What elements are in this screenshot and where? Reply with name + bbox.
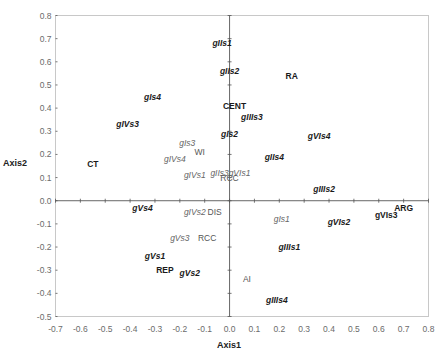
y-tick-label: -0.3 — [37, 265, 52, 275]
point-label: gIIIs1 — [277, 242, 300, 252]
point-label: RA — [286, 71, 298, 81]
x-tick-label: 0.8 — [423, 324, 435, 334]
point-label: gIs3 — [179, 138, 195, 148]
point-label: gVs3 — [170, 233, 190, 243]
y-tick-label: -0.5 — [37, 312, 52, 322]
y-tick-label: 0.4 — [40, 103, 52, 113]
x-tick-label: -0.2 — [173, 324, 188, 334]
point-label: gIVs3 — [115, 119, 139, 129]
data-labels: gIIs1gIIs2RAgIs4CENTgIIIs3gIVs3gIs2gVIs4… — [87, 38, 413, 305]
y-tick-label: 0.1 — [40, 173, 52, 183]
x-tick-label: -0.5 — [98, 324, 113, 334]
point-label: DIS — [208, 207, 223, 217]
x-axis-title: Axis1 — [217, 340, 241, 350]
plot-frame — [56, 16, 429, 317]
point-label: gIVs2 — [184, 207, 206, 217]
y-tick-label: 0.2 — [40, 149, 52, 159]
x-tick-label: 0.5 — [348, 324, 360, 334]
point-label: gIIs2 — [219, 66, 240, 76]
x-tick-label: 0.3 — [298, 324, 310, 334]
point-label: gVs4 — [131, 203, 153, 213]
point-label: gIVs1 — [184, 170, 206, 180]
point-label: REP — [156, 265, 174, 275]
y-tick-label: 0.8 — [40, 11, 52, 21]
point-label: gVIs3 — [375, 210, 398, 220]
x-tick-label: 0.1 — [249, 324, 261, 334]
point-label: gIVs4 — [164, 154, 186, 164]
point-label: RCC — [220, 173, 238, 183]
point-label: gIs1 — [274, 214, 290, 224]
point-label: RCC — [198, 233, 216, 243]
point-label: gIIs1 — [211, 38, 232, 48]
x-tick-label: -0.1 — [197, 324, 212, 334]
y-tick-label: -0.4 — [37, 288, 52, 298]
y-tick-label: 0.3 — [40, 126, 52, 136]
x-tick-label: 0.7 — [398, 324, 410, 334]
point-label: gVIs2 — [327, 217, 351, 227]
x-tick-label: 0.6 — [373, 324, 385, 334]
point-label: gVs2 — [179, 268, 201, 278]
point-label: gVIs4 — [307, 131, 331, 141]
point-label: gIIIs2 — [312, 184, 335, 194]
point-label: gIs4 — [143, 92, 161, 102]
y-tick-label: -0.2 — [37, 242, 52, 252]
axes — [56, 16, 429, 317]
point-label: CT — [87, 159, 99, 169]
ordination-scatter-chart: -0.7-0.6-0.5-0.4-0.3-0.2-0.10.00.10.20.3… — [0, 0, 443, 359]
y-tick-label: 0.5 — [40, 80, 52, 90]
x-tick-label: -0.4 — [123, 324, 138, 334]
y-axis-title: Axis2 — [3, 158, 27, 168]
point-label: gIIIs4 — [265, 295, 288, 305]
x-tick-label: -0.6 — [73, 324, 88, 334]
y-tick-label: -0.1 — [37, 219, 52, 229]
x-tick-label: 0.2 — [273, 324, 285, 334]
point-label: gVs1 — [144, 251, 166, 261]
y-tick-label: 0.6 — [40, 57, 52, 67]
x-tick-label: -0.3 — [148, 324, 163, 334]
x-tick-label: 0.0 — [224, 324, 236, 334]
y-tick-label: 0.0 — [40, 196, 52, 206]
point-label: gIIIs3 — [240, 112, 263, 122]
point-label: gIs2 — [220, 129, 238, 139]
point-label: AI — [243, 274, 251, 284]
point-label: gIIs4 — [264, 152, 285, 162]
y-tick-label: 0.7 — [40, 34, 52, 44]
point-label: CENT — [223, 101, 247, 111]
point-label: WI — [195, 147, 205, 157]
y-axis-ticks: 0.80.70.60.50.40.30.20.10.0-0.1-0.2-0.3-… — [37, 11, 232, 322]
x-tick-label: -0.7 — [48, 324, 63, 334]
x-tick-label: 0.4 — [323, 324, 335, 334]
